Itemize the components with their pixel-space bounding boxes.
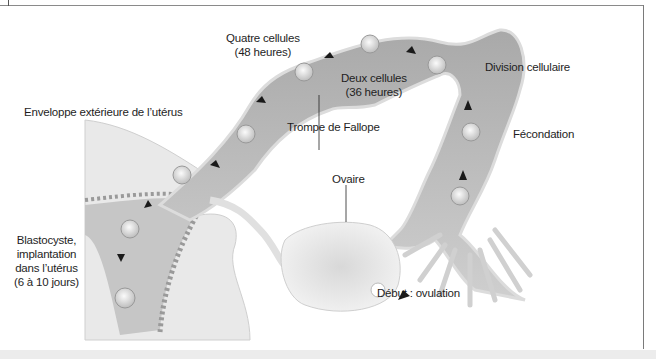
morula-3 xyxy=(173,166,191,184)
label-trompe-fallope: Trompe de Fallope xyxy=(287,120,380,134)
morula-1 xyxy=(295,63,313,81)
label-deux-cellules: Deux cellules (36 heures) xyxy=(341,71,407,99)
label-line: (36 heures) xyxy=(341,85,407,99)
egg-cell xyxy=(451,187,469,205)
label-enveloppe-uterus: Enveloppe extérieure de l’utérus xyxy=(24,105,183,119)
label-line: Deux cellules xyxy=(341,71,407,85)
label-blastocyste: Blastocyste, implantation dans l’utérus … xyxy=(14,233,79,289)
label-line: dans l’utérus xyxy=(14,261,79,275)
label-line: (48 heures) xyxy=(226,45,300,59)
reproductive-diagram xyxy=(0,0,656,359)
label-line: Quatre cellules xyxy=(226,31,300,45)
label-line: Blastocyste, xyxy=(14,233,79,247)
label-division-cellulaire: Division cellulaire xyxy=(485,60,570,74)
blastocyst xyxy=(121,220,139,238)
label-line: implantation xyxy=(14,247,79,261)
implanted-blastocyst xyxy=(115,288,135,308)
label-fecondation: Fécondation xyxy=(513,127,574,141)
two-cell-stage xyxy=(428,56,446,74)
label-quatre-cellules: Quatre cellules (48 heures) xyxy=(226,31,300,59)
morula-2 xyxy=(237,125,255,143)
four-cell-stage xyxy=(361,35,379,53)
label-ovaire: Ovaire xyxy=(332,172,365,186)
label-line: (6 à 10 jours) xyxy=(14,275,79,289)
fertilized-cell xyxy=(462,123,480,141)
label-debut-ovulation: Début : ovulation xyxy=(377,286,460,300)
